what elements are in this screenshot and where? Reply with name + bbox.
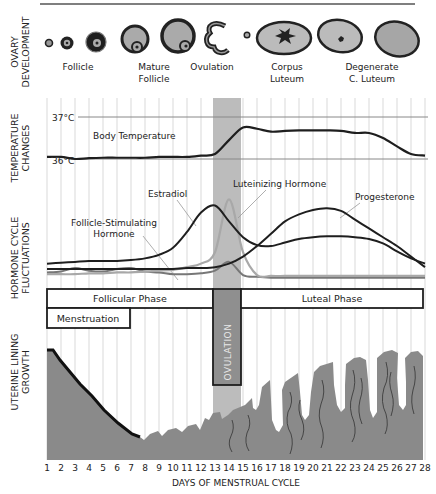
ovary-stage-label: MatureFollicle xyxy=(138,62,170,84)
row-label-temperature: TEMPERATURECHANGES xyxy=(9,113,31,183)
x-tick-label: 8 xyxy=(142,463,148,473)
follicular-phase-label: Follicular Phase xyxy=(93,293,167,304)
corpus-luteum-icon xyxy=(257,16,365,56)
x-tick-label: 24 xyxy=(363,463,375,473)
x-tick-label: 21 xyxy=(321,463,332,473)
row-label-hormone: HORMONE CYCLEFLUCTUATIONS xyxy=(9,217,31,300)
x-tick-label: 26 xyxy=(391,463,403,473)
x-tick-label: 7 xyxy=(128,463,134,473)
luteal-phase-label: Luteal Phase xyxy=(302,293,363,304)
x-tick-label: 13 xyxy=(209,463,220,473)
x-axis-title: DAYS OF MENSTRUAL CYCLE xyxy=(172,478,300,488)
ovary-stage-label: Ovulation xyxy=(190,62,233,72)
ovary-row: OVARYDEVELOPMENT xyxy=(9,16,423,88)
x-tick-label: 18 xyxy=(279,463,291,473)
x-tick-label: 25 xyxy=(377,463,388,473)
mature-follicle-icon xyxy=(122,20,194,52)
progesterone-label: Progesterone xyxy=(355,192,415,202)
x-tick-label: 17 xyxy=(265,463,276,473)
x-tick-label: 12 xyxy=(195,463,206,473)
row-label-uterine: UTERINE LININGGROWTH xyxy=(9,334,31,411)
x-tick-label: 6 xyxy=(114,463,120,473)
row-label-ovary: OVARYDEVELOPMENT xyxy=(9,16,31,87)
x-tick-label: 9 xyxy=(156,463,162,473)
x-tick-label: 22 xyxy=(335,463,346,473)
ovary-stage-label: DegenerateC. Luteum xyxy=(345,62,399,84)
x-tick-label: 11 xyxy=(181,463,192,473)
x-tick-label: 5 xyxy=(100,463,106,473)
x-tick-label: 15 xyxy=(237,463,248,473)
x-tick-label: 20 xyxy=(307,463,319,473)
x-tick-label: 14 xyxy=(223,463,235,473)
fsh-label: Follicle-StimulatingHormone xyxy=(71,218,157,239)
x-tick-label: 10 xyxy=(167,463,179,473)
ovary-stage-label: Follicle xyxy=(63,62,94,72)
degenerate-corpus-luteum-icon xyxy=(371,17,422,61)
x-tick-label: 23 xyxy=(349,463,360,473)
x-tick-label: 4 xyxy=(86,463,92,473)
ovulation-label: OVULATION xyxy=(223,324,233,381)
body-temperature-label: Body Temperature xyxy=(93,131,176,141)
lh-label: Luteinizing Hormone xyxy=(233,179,327,189)
estradiol-label: Estradiol xyxy=(148,189,187,199)
menstruation-label: Menstruation xyxy=(57,313,120,324)
x-tick-label: 1 xyxy=(44,463,50,473)
x-tick-label: 19 xyxy=(293,463,305,473)
x-tick-label: 28 xyxy=(419,463,431,473)
follicle-icon xyxy=(46,32,107,52)
x-tick-label: 16 xyxy=(251,463,263,473)
ovary-stage-label: CorpusLuteum xyxy=(270,62,304,84)
x-axis-ticks: 1234567891011121314151617181920212223242… xyxy=(44,463,431,473)
menstrual-cycle-diagram: OVARYDEVELOPMENT xyxy=(0,0,436,494)
x-tick-label: 27 xyxy=(405,463,416,473)
x-tick-label: 2 xyxy=(58,463,64,473)
x-tick-label: 3 xyxy=(72,463,78,473)
temp-37-label: 37°C xyxy=(52,113,74,123)
ovulation-icon xyxy=(207,24,250,53)
